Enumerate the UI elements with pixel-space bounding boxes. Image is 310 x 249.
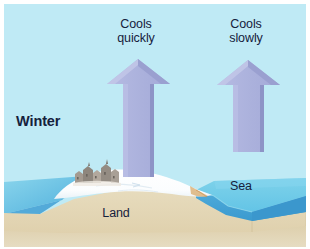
label-cools-slowly: Cools slowly [208,17,284,45]
label-winter: Winter [16,113,98,129]
sea-cooling-arrow [217,60,280,152]
label-land: Land [86,206,146,220]
label-cools-quickly: Cools quickly [98,17,174,45]
village-buildings [73,159,121,186]
diagram-canvas: Cools quickly Cools slowly Winter Land S… [0,0,310,249]
land-cooling-arrow [107,59,170,177]
label-sea: Sea [216,179,266,193]
